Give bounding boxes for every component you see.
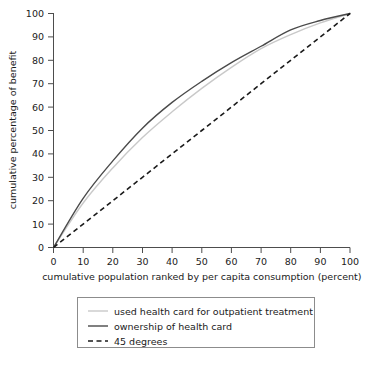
series-line-45-degrees (54, 14, 351, 248)
y-tick-label-80: 80 (32, 55, 44, 66)
y-tick-label-70: 70 (32, 78, 44, 89)
y-tick-label-0: 0 (38, 242, 44, 253)
x-tick-label-50: 50 (196, 256, 208, 267)
x-tick-label-60: 60 (225, 256, 237, 267)
y-tick-label-30: 30 (32, 172, 44, 183)
x-tick-label-90: 90 (314, 256, 326, 267)
legend-label-2: 45 degrees (114, 336, 167, 347)
lorenz-curve-figure: 100 90 80 70 60 50 40 30 20 10 0 (0, 0, 367, 369)
y-tick-label-60: 60 (32, 102, 44, 113)
legend-label-1: ownership of health card (114, 321, 232, 332)
y-tick-label-50: 50 (32, 125, 44, 136)
x-axis-tick-labels: 0 10 20 30 40 50 60 70 80 90 100 (50, 256, 359, 267)
x-axis-ticks (54, 248, 351, 254)
x-tick-label-70: 70 (255, 256, 267, 267)
y-tick-label-100: 100 (26, 8, 44, 19)
legend-item-used-health-card-outpatient[interactable]: used health card for outpatient treatmen… (88, 306, 313, 317)
x-tick-label-80: 80 (285, 256, 297, 267)
y-tick-label-90: 90 (32, 31, 44, 42)
x-tick-label-100: 100 (341, 256, 359, 267)
y-tick-label-10: 10 (32, 219, 44, 230)
x-axis-title: cumulative population ranked by per capi… (42, 271, 361, 282)
y-axis-ticks (48, 14, 54, 248)
y-tick-label-20: 20 (32, 195, 44, 206)
legend-item-45-degrees[interactable]: 45 degrees (88, 336, 167, 347)
y-axis-tick-labels: 100 90 80 70 60 50 40 30 20 10 0 (26, 8, 44, 253)
y-axis-title: cumulative percentage of benefit (7, 50, 18, 209)
chart-svg: 100 90 80 70 60 50 40 30 20 10 0 (0, 0, 367, 369)
x-tick-label-10: 10 (77, 256, 89, 267)
x-tick-label-0: 0 (50, 256, 56, 267)
x-tick-label-40: 40 (166, 256, 178, 267)
x-tick-label-30: 30 (136, 256, 148, 267)
legend-item-ownership-health-card[interactable]: ownership of health card (88, 321, 232, 332)
y-tick-label-40: 40 (32, 148, 44, 159)
legend-label-0: used health card for outpatient treatmen… (114, 306, 313, 317)
legend: used health card for outpatient treatmen… (78, 298, 315, 348)
x-tick-label-20: 20 (107, 256, 119, 267)
plot-series-group (54, 14, 351, 248)
